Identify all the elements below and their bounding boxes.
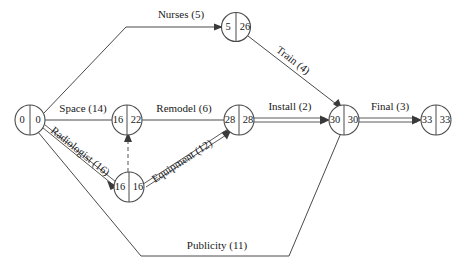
node-5-late: 30 <box>348 114 359 125</box>
edge-label-install: Install (2) <box>268 100 311 113</box>
node-2-early: 16 <box>113 114 124 125</box>
node-6[interactable]: 33 33 <box>421 105 451 135</box>
edge-label-radiologist: Radiologist (16) <box>48 124 113 179</box>
edge-install: Install (2) <box>254 100 330 125</box>
edge-label-nurses: Nurses (5) <box>158 8 204 21</box>
edge-nurses: Nurses (5) <box>44 8 223 113</box>
node-3-late: 16 <box>133 181 144 192</box>
edge-final: Final (3) <box>359 100 422 125</box>
edge-dummy-activity <box>124 132 132 172</box>
node-5-early: 30 <box>330 114 341 125</box>
edge-label-space: Space (14) <box>59 102 107 115</box>
node-6-late: 33 <box>440 114 451 125</box>
node-2[interactable]: 16 22 <box>112 105 142 135</box>
edge-space: Space (14) <box>45 102 113 120</box>
node-0-early: 0 <box>19 114 24 125</box>
node-3[interactable]: 16 16 <box>114 172 144 202</box>
node-4-early: 28 <box>225 114 236 125</box>
node-4-late: 28 <box>243 114 254 125</box>
node-5[interactable]: 30 30 <box>329 105 359 135</box>
node-6-early: 33 <box>422 114 433 125</box>
node-0[interactable]: 0 0 <box>15 105 45 135</box>
node-1[interactable]: 5 26 <box>222 13 251 42</box>
edge-label-remodel: Remodel (6) <box>156 102 212 115</box>
edge-label-final: Final (3) <box>371 100 410 113</box>
edge-label-equipment: Equipment (12) <box>149 137 215 186</box>
node-0-late: 0 <box>35 114 40 125</box>
edge-equipment: Equipment (12) <box>144 128 232 187</box>
node-1-early: 5 <box>225 21 230 32</box>
node-1-late: 26 <box>240 21 251 32</box>
edge-radiologist: Radiologist (16) <box>43 124 118 190</box>
edge-label-publicity: Publicity (11) <box>187 239 248 252</box>
node-2-late: 22 <box>131 114 142 125</box>
node-4[interactable]: 28 28 <box>224 105 254 135</box>
edge-remodel: Remodel (6) <box>142 102 224 120</box>
network-diagram: Nurses (5) Space (14) Radiologist (16) P… <box>0 0 462 276</box>
node-3-early: 16 <box>115 181 126 192</box>
